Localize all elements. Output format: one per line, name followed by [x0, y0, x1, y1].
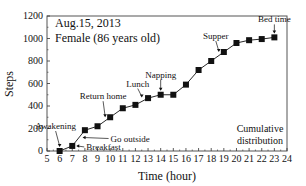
y-tick-label: 0: [38, 145, 43, 156]
data-point-marker: [170, 92, 176, 98]
x-tick-label: 14: [156, 153, 166, 164]
x-tick-label: 7: [70, 153, 75, 164]
cumulative-note-line2: distribution: [237, 135, 283, 146]
data-point-marker: [233, 40, 239, 46]
arrow-head-icon: [159, 88, 163, 91]
arrow-head-icon: [103, 114, 107, 117]
y-tick-label: 400: [28, 100, 43, 111]
chart-svg: 5678910111213141516171819202122232402004…: [0, 0, 306, 186]
y-tick-label: 800: [28, 55, 43, 66]
x-tick-label: 22: [257, 153, 267, 164]
data-point-marker: [246, 37, 252, 43]
event-label: Bed time: [258, 14, 291, 24]
event-label: Go outside: [111, 134, 150, 144]
data-point-marker: [196, 67, 202, 73]
arrow-head-icon: [76, 144, 79, 148]
event-annotation: Return home: [80, 91, 127, 117]
x-tick-label: 9: [95, 153, 100, 164]
x-tick-label: 23: [269, 153, 279, 164]
arrow-head-icon: [83, 136, 86, 140]
y-tick-label: 600: [28, 78, 43, 89]
x-tick-label: 18: [206, 153, 216, 164]
x-tick-label: 6: [57, 153, 62, 164]
data-point-marker: [145, 95, 151, 101]
event-label: Supper: [203, 31, 229, 41]
x-axis-label: Time (hour): [138, 169, 196, 183]
event-annotation: Napping: [145, 70, 176, 91]
y-axis-label: Steps: [2, 71, 16, 97]
data-point-marker: [158, 92, 164, 98]
event-label: Return home: [80, 91, 127, 101]
event-label: Awakening: [35, 121, 76, 131]
subject-annotation: Female (86 years old): [55, 31, 160, 45]
x-tick-label: 13: [143, 153, 153, 164]
data-point-marker: [82, 127, 88, 133]
data-point-marker: [95, 123, 101, 129]
arrow-head-icon: [273, 30, 277, 33]
x-tick-label: 20: [231, 153, 241, 164]
data-point-marker: [271, 34, 277, 40]
y-tick-label: 1200: [23, 10, 43, 21]
data-point-marker: [132, 102, 138, 108]
event-annotation: Supper: [203, 31, 229, 52]
data-point-marker: [221, 49, 227, 55]
event-annotation: Bed time: [258, 14, 291, 33]
cumulative-note-line1: Cumulative: [237, 123, 284, 134]
data-point-marker: [57, 148, 63, 154]
x-tick-label: 15: [168, 153, 178, 164]
x-tick-label: 19: [219, 153, 229, 164]
event-label: Napping: [145, 70, 176, 80]
x-tick-label: 24: [282, 153, 292, 164]
x-tick-label: 16: [181, 153, 191, 164]
x-tick-label: 21: [244, 153, 254, 164]
event-label: Lunch: [126, 79, 149, 89]
x-tick-label: 10: [105, 153, 115, 164]
x-tick-label: 11: [118, 153, 128, 164]
event-annotation: Lunch: [126, 79, 149, 98]
arrow-head-icon: [58, 144, 62, 147]
data-point-marker: [69, 143, 75, 149]
data-point-marker: [183, 82, 189, 88]
y-tick-label: 1000: [23, 33, 43, 44]
x-tick-label: 17: [194, 153, 204, 164]
x-tick-label: 8: [82, 153, 87, 164]
x-tick-label: 12: [130, 153, 140, 164]
data-point-marker: [120, 105, 126, 111]
data-point-marker: [107, 114, 113, 120]
x-tick-label: 5: [45, 153, 50, 164]
data-point-marker: [259, 36, 265, 42]
cumulative-steps-chart: 5678910111213141516171819202122232402004…: [0, 0, 306, 186]
data-point-marker: [208, 58, 214, 64]
arrow-head-icon: [140, 95, 144, 98]
arrow-head-icon: [217, 49, 221, 52]
date-annotation: Aug.15, 2013: [55, 16, 121, 30]
